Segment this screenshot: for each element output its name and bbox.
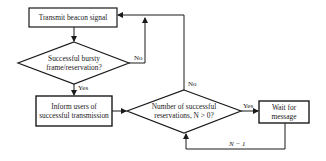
wait-node: Wait for message [259, 101, 309, 123]
decision1-line1: Successful bursty [48, 54, 100, 63]
decision2-node: Number of successful reservations, N > 0… [144, 100, 224, 122]
decision1-no-label: No [134, 54, 143, 63]
decision1-line2: frame/reservation? [46, 63, 101, 72]
inform-node: Inform users of successful transmission [36, 96, 112, 126]
inform-line1: Inform users of [51, 102, 97, 111]
decision1-yes-label: Yes [78, 84, 88, 93]
transmit-node: Transmit beacon signal [29, 8, 117, 27]
transmit-label: Transmit beacon signal [39, 13, 108, 22]
decision2-yes-label: Yes [243, 102, 253, 111]
decision2-line1: Number of successful [152, 102, 216, 111]
decision2-no-label: No [188, 80, 197, 89]
decision1-node: Successful bursty frame/reservation? [40, 52, 108, 74]
decision2-line2: reservations, N > 0? [154, 111, 214, 120]
loop-label: N − 1 [229, 140, 245, 149]
wait-line1: Wait for [272, 103, 296, 112]
inform-line2: successful transmission [39, 111, 109, 120]
wait-line2: message [271, 112, 296, 121]
